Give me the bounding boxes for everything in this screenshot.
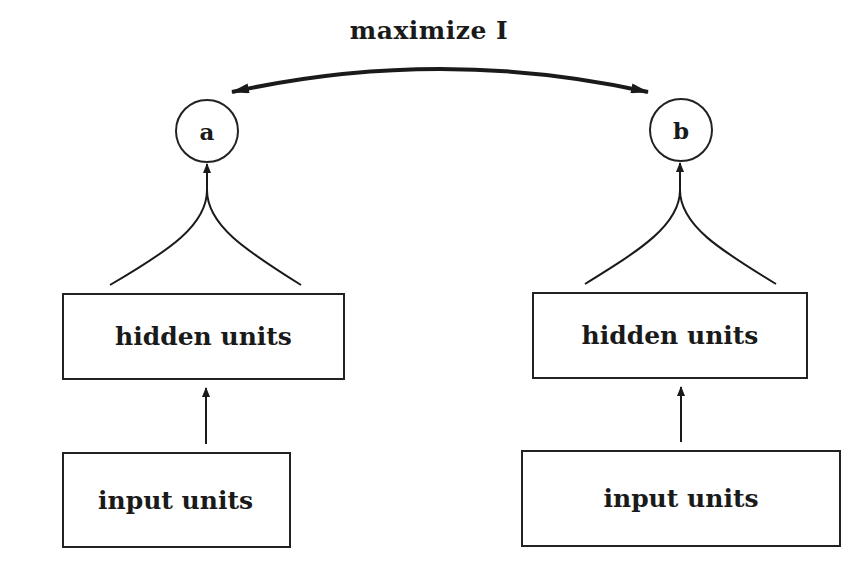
node-b-label: b <box>673 117 689 144</box>
mutual-information-arrow <box>232 69 648 92</box>
right-input-label: input units <box>603 484 758 513</box>
objective-label: maximize I <box>0 16 858 45</box>
right-hidden-label: hidden units <box>582 321 759 350</box>
left-hidden-label: hidden units <box>115 322 292 351</box>
left-converge-arrow <box>110 164 207 285</box>
output-node-b: b <box>649 98 713 162</box>
left-input-label: input units <box>98 486 253 515</box>
right-hidden-units-box: hidden units <box>532 292 808 379</box>
left-hidden-units-box: hidden units <box>62 293 345 380</box>
output-node-a: a <box>175 99 239 163</box>
right-converge-arrow <box>585 163 680 284</box>
left-input-units-box: input units <box>62 452 291 548</box>
right-input-units-box: input units <box>521 450 841 547</box>
node-a-label: a <box>200 118 215 145</box>
